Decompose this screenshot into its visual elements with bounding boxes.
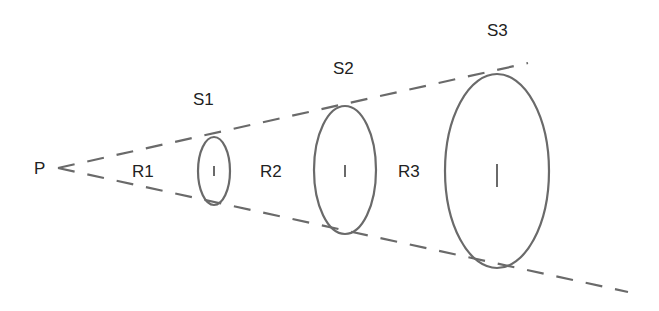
region-r1-label: R1 xyxy=(132,162,154,181)
surface-s1-label: S1 xyxy=(193,90,214,109)
surface-s2: S2 xyxy=(314,59,376,234)
lower-ray xyxy=(58,168,628,292)
surface-s3: S3 xyxy=(445,21,549,268)
point-p-label: P xyxy=(34,159,45,178)
region-r2-label: R2 xyxy=(260,162,282,181)
cone-diagram: S1 S2 S3 P R1 R2 R3 xyxy=(0,0,659,311)
surface-s2-label: S2 xyxy=(333,59,354,78)
surface-s1: S1 xyxy=(193,90,230,205)
surface-s3-label: S3 xyxy=(487,21,508,40)
region-r3-label: R3 xyxy=(398,162,420,181)
upper-ray xyxy=(58,63,528,168)
